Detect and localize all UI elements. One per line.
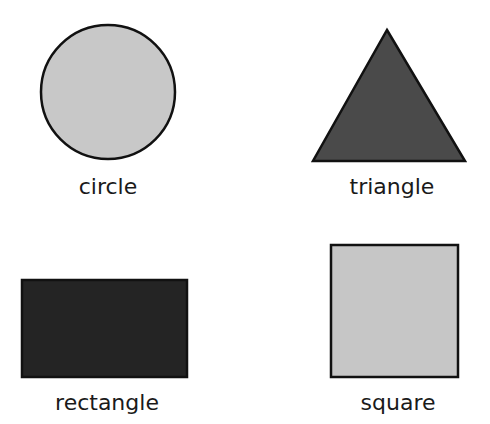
circle-shape [41,25,175,159]
circle-label: circle [79,176,138,198]
rectangle-label: rectangle [55,392,159,414]
square-label: square [361,392,436,414]
triangle-shape [313,30,465,161]
rectangle-shape [22,280,187,377]
shapes-canvas [0,0,490,424]
square-shape [331,245,458,377]
triangle-label: triangle [350,176,435,198]
